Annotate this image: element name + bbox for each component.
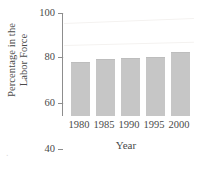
bar-1980 [71, 62, 90, 116]
bar-chart-figure: Percentage in the Labor Force 100 80 60 [0, 0, 205, 169]
x-tick-label-1995: 1995 [144, 119, 165, 130]
bar-1985 [96, 59, 115, 116]
plot-area: 100 80 60 40 20 1 [62, 13, 190, 116]
x-axis-title: Year [62, 139, 190, 151]
x-tick-label-1980: 1980 [69, 119, 90, 130]
bar-1990 [121, 58, 140, 116]
y-axis-title-text: Percentage in the Labor Force [6, 23, 30, 97]
y-tick-label-80: 80 [45, 52, 56, 63]
y-axis-title-line-1: Percentage in the [6, 23, 18, 97]
bar-1995 [146, 57, 165, 116]
y-axis-title: Percentage in the Labor Force [0, 0, 36, 120]
y-tick-label-100: 100 [39, 8, 55, 19]
x-tick-label-2000: 2000 [169, 119, 190, 130]
y-tick-label-40: 40 [45, 144, 56, 155]
x-tick-label-1990: 1990 [119, 119, 140, 130]
y-tick-label-60: 60 [45, 98, 56, 109]
scan-artifact-mark: ∙ [6, 152, 13, 158]
bar-2000 [171, 52, 190, 116]
x-tick-label-1985: 1985 [94, 119, 115, 130]
bar-series [63, 13, 190, 116]
y-axis-title-line-2: Labor Force [18, 23, 30, 97]
